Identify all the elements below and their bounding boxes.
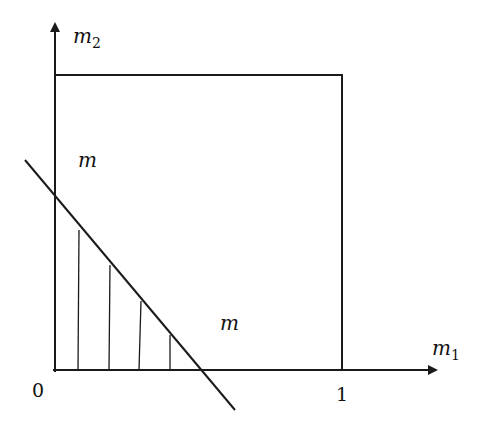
unit-square-boundary [55, 75, 342, 370]
region-label-lower-right: m [220, 311, 239, 335]
y-axis-label: m2 [73, 24, 101, 51]
diagonal-line [25, 160, 235, 410]
diagram-canvas: m2 m1 0 1 m m [0, 0, 485, 428]
x-tick-label-1: 1 [336, 383, 348, 405]
region-label-upper: m [78, 148, 97, 172]
hatching [78, 230, 170, 370]
x-axis-label: m1 [432, 336, 460, 363]
origin-label: 0 [32, 379, 44, 401]
